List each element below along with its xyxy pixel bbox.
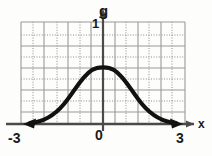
- origin-label: 0: [95, 128, 103, 142]
- right-arrowhead-icon: [170, 119, 183, 129]
- y-axis: [99, 9, 107, 131]
- graph-figure: g x 1 0 -3 3: [0, 0, 212, 156]
- x-tick-label-neg3: -3: [8, 131, 20, 145]
- y-tick-label-1: 1: [92, 17, 99, 30]
- x-axis-label: x: [198, 118, 205, 130]
- x-tick-label-3: 3: [176, 131, 184, 145]
- left-arrowhead-icon: [23, 119, 36, 129]
- y-axis-label: g: [99, 3, 108, 18]
